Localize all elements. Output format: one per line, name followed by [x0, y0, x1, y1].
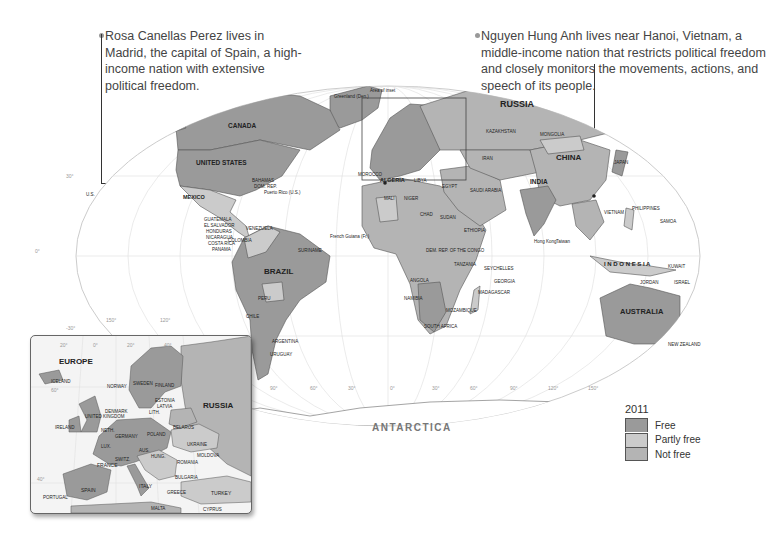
label-china: CHINA [556, 153, 582, 162]
legend-swatch-free [625, 418, 648, 432]
label-iran: IRAN [482, 156, 493, 161]
label-dem-rep-congo: DEM. REP. OF THE CONGO [426, 248, 485, 253]
label-greenland: Greenland (Den.) [334, 94, 369, 99]
inset-lon-20e: 20° [127, 342, 135, 348]
label-suriname: SURINAME [298, 248, 322, 253]
label-mongolia: MONGOLIA [540, 132, 564, 137]
land-philippines [624, 208, 634, 230]
inset-lon-20w: 20° [60, 342, 68, 348]
inset-label-latvia: LATVIA [157, 404, 172, 409]
inset-label-norway: NORWAY [107, 384, 127, 389]
inset-label-russia: RUSSIA [203, 401, 233, 410]
inset-label-belarus: BELARUS [173, 425, 194, 430]
inset-label-germany: GERMANY [115, 434, 138, 439]
label-new-zealand: NEW ZEALAND [668, 342, 701, 347]
label-morocco: MOROCCO [358, 172, 382, 177]
label-marshall-islands: SAMOA [660, 219, 676, 224]
land-new-zealand [676, 334, 700, 362]
inset-lon-40e: 40° [164, 342, 172, 348]
label-brazil: BRAZIL [264, 267, 293, 276]
inset-lon-0: 0° [93, 342, 98, 348]
label-comoros: SEYCHELLES [484, 266, 514, 271]
label-panama: PANAMA [212, 247, 231, 252]
inset-land-iberia [63, 464, 111, 500]
label-dom-rep: DOM. REP. [254, 184, 277, 189]
label-tanzania: TANZANIA [454, 262, 476, 267]
lon-label-90w: 90° [270, 385, 278, 391]
legend-item-partly-free: Partly free [625, 433, 701, 448]
inset-label-bulgaria: BULGARIA [175, 475, 198, 480]
inset-label-sweden: SWEDEN [133, 381, 153, 386]
inset-label-estonia: ESTONIA [155, 398, 175, 403]
label-french-guiana: French Guiana (Fr.) [330, 234, 370, 239]
label-south-africa: SOUTH AFRICA [424, 324, 457, 329]
label-el-salvador: EL SALVADOR [204, 223, 235, 228]
label-nicaragua: NICARAGUA [206, 235, 233, 240]
lon-label-150e: 150° [588, 385, 598, 391]
lat-label-0: 0° [35, 248, 40, 254]
label-niger: NIGER [404, 196, 419, 201]
map-legend: 2011 Free Partly free Not free [625, 403, 701, 462]
label-venezuela: VENEZUELA [246, 226, 273, 231]
label-uruguay: URUGUAY [270, 352, 292, 357]
lon-label-150w: 150° [106, 317, 116, 323]
label-chile: CHILE [246, 314, 259, 319]
label-namibia: NAMIBIA [404, 296, 423, 301]
legend-swatch-partly-free [625, 433, 648, 447]
label-antarctica: ANTARCTICA [372, 422, 452, 433]
label-vanuatu: JORDAN [640, 280, 659, 285]
inset-label-united-kingdom: UNITED KINGDOM [85, 414, 125, 419]
inset-label-austria: AUS. [139, 448, 150, 453]
inset-label-poland: POLAND [147, 432, 166, 437]
inset-label-italy: ITALY [139, 483, 153, 489]
label-saudi-arabia: SAUDI ARABIA [470, 188, 501, 193]
inset-label-finland: FINLAND [155, 383, 175, 388]
inset-label-lithuania: LITH. [149, 410, 160, 415]
label-mauritius: GEORGIA [494, 279, 515, 284]
label-sri-lanka: Taiwan [556, 239, 571, 244]
inset-label-iceland: ICELAND [51, 379, 71, 384]
inset-label-lux: LUX. [101, 444, 111, 449]
europe-inset-svg: EUROPE RUSSIA ICELAND NORWAY SWEDEN FINL… [31, 336, 251, 513]
label-russia: RUSSIA [500, 99, 535, 109]
label-kazakhstan: KAZAKHSTAN [486, 129, 516, 134]
label-honduras: HONDURAS [206, 229, 232, 234]
inset-label-hungary: HUNG. [151, 454, 166, 459]
label-argentina: ARGENTINA [272, 339, 298, 344]
label-philippines: PHILIPPINES [632, 206, 660, 211]
inset-label-spain: SPAIN [81, 487, 96, 493]
label-mali: MALI [384, 196, 395, 201]
inset-lat-40: 40° [37, 476, 45, 482]
legend-label-partly-free: Partly free [655, 434, 701, 445]
lon-label-120w: 120° [160, 317, 170, 323]
label-india: INDIA [530, 178, 548, 185]
legend-swatch-not-free [625, 447, 648, 461]
label-indonesia: I N D O N E S I A [604, 261, 651, 267]
inset-label-portugal: PORTUGAL [43, 495, 68, 500]
label-us-hawaii: U.S. [86, 192, 95, 197]
label-fiji: ISRAEL [674, 280, 691, 285]
label-canada: CANADA [228, 122, 256, 129]
inset-label-neth: NETH. [101, 428, 115, 433]
legend-item-free: Free [625, 418, 701, 433]
inset-label-malta: MALTA [151, 506, 165, 511]
label-tuvalu: KUWAIT [668, 264, 686, 269]
lon-label-30w: 30° [348, 385, 356, 391]
label-chad: CHAD [420, 212, 434, 217]
hanoi-marker [592, 194, 596, 198]
legend-item-not-free: Not free [625, 447, 701, 462]
lat-label-30n: 30° [66, 173, 74, 179]
label-bahamas: BAHAMAS [252, 178, 274, 183]
lon-label-0: 0° [390, 385, 395, 391]
inset-label-cyprus: CYPRUS [203, 507, 222, 512]
lon-label-90e: 90° [510, 385, 518, 391]
inset-label-turkey: TURKEY [211, 490, 232, 496]
inset-label-greece: GREECE [167, 490, 186, 495]
label-madagascar: MADAGASCAR [478, 290, 511, 295]
legend-label-free: Free [655, 420, 676, 431]
inset-label-ukraine: UKRAINE [187, 442, 207, 447]
label-mexico: MEXICO [183, 194, 205, 200]
label-australia: AUSTRALIA [620, 307, 664, 316]
label-puerto-rico: Puerto Rico (U.S.) [264, 190, 301, 195]
inset-label-ireland: IRELAND [55, 425, 75, 430]
